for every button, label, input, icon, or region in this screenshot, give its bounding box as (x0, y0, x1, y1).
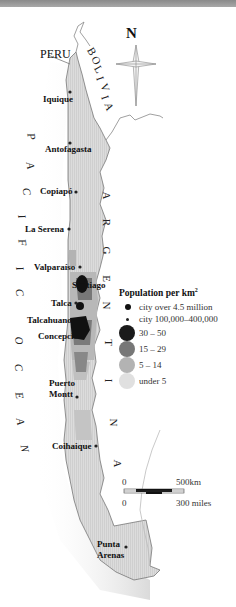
scale-mi-label: 300 miles (176, 499, 211, 508)
compass-rose-icon (116, 45, 156, 106)
city-label-valparaiso: Valparaíso (34, 263, 75, 272)
argentina-letter: A (101, 192, 112, 200)
argentina-letter: N (101, 302, 112, 310)
scale-km-label: 500km (176, 478, 201, 487)
density-5-14-swatch-icon (119, 357, 135, 373)
scale-km-zero: 0 (122, 478, 127, 487)
scale-bar-icon (124, 489, 184, 494)
city-label-puerto: Puerto (49, 379, 75, 388)
city-label-punta: Punta (97, 540, 120, 549)
city-label-montt: Montt (49, 390, 73, 399)
argentina-letter: N (108, 419, 119, 427)
legend-item: city over 4.5 million (119, 301, 236, 313)
legend-item: 5 – 14 (119, 357, 236, 373)
city-label-iquique: Iquique (43, 95, 73, 104)
country-label-peru: PERU (40, 48, 71, 60)
city-dot-talca (74, 301, 77, 304)
argentina-letter: I (103, 379, 114, 383)
legend-title-superscript: 2 (195, 287, 198, 293)
argentina-border-top (106, 114, 163, 140)
city-label-coihaique: Coihaique (52, 442, 92, 451)
legend-item: 30 – 50 (119, 325, 236, 341)
legend-label: 30 – 50 (139, 328, 166, 338)
legend-swatch-wrap (119, 318, 136, 321)
bolivia-border (74, 22, 90, 52)
small-city-dot-icon (126, 318, 129, 321)
legend-title-text: Population per km (119, 288, 195, 298)
legend-item: city 100,000–400,000 (119, 313, 236, 325)
legend-label: 5 – 14 (139, 360, 162, 370)
city-label-talcahuano: Talcahuano (27, 316, 72, 325)
city-label-talca: Talca (51, 299, 72, 308)
legend-label: 15 – 29 (139, 344, 166, 354)
population-legend: Population per km2 city over 4.5 million… (119, 287, 236, 389)
legend-item: under 5 (119, 373, 236, 389)
city-label-copiapo: Copiapó (40, 187, 73, 196)
legend-label: city 100,000–400,000 (139, 314, 218, 324)
city-label-antofagasta: Antofagasta (45, 145, 92, 154)
city-label-arenas: Arenas (97, 551, 124, 560)
density-15-29-swatch-icon (119, 341, 135, 357)
city-label-la-serena: La Serena (25, 225, 64, 234)
compass-north-label: N (126, 25, 137, 42)
city-dot-copiapo (74, 190, 77, 193)
city-dot-puerto-montt (75, 395, 78, 398)
legend-title: Population per km2 (119, 287, 236, 298)
city-dot-punta-arenas (124, 545, 127, 548)
density-under-5-swatch-icon (119, 373, 135, 389)
legend-label: under 5 (139, 376, 166, 386)
argentina-letter: G (101, 247, 112, 255)
city-label-concepcion: Concepción (38, 332, 83, 341)
scale-mi-zero: 0 (122, 499, 127, 508)
city-dot-coihaique (94, 444, 97, 447)
city-dot-valparaiso (78, 265, 81, 268)
argentina-letter: A (112, 460, 123, 468)
legend-item: 15 – 29 (119, 341, 236, 357)
city-label-santiago: Santiago (72, 281, 106, 290)
density-15-29-region (74, 352, 88, 372)
density-30-50-swatch-icon (119, 325, 135, 341)
legend-swatch-wrap (119, 304, 136, 310)
large-city-dot-icon (125, 304, 131, 310)
city-dot-la-serena (67, 227, 70, 230)
density-5-14-region (74, 410, 92, 440)
argentina-letter: R (101, 219, 112, 226)
argentina-letter: T (103, 339, 114, 346)
legend-label: city over 4.5 million (139, 302, 213, 312)
